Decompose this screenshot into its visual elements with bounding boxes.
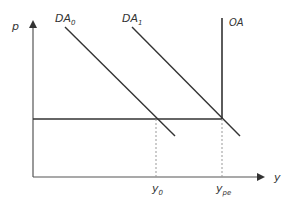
y-axis-label: p — [11, 20, 19, 33]
y0-tick-label: y0 — [151, 182, 164, 197]
da0-label: DA0 — [55, 12, 76, 27]
x-axis-label: y — [273, 171, 281, 184]
diagram-canvas: p y DA0 DA1 OA y0 ype — [0, 0, 293, 205]
oa-label: OA — [229, 17, 244, 28]
da1-label: DA1 — [122, 12, 142, 27]
ype-tick-label: ype — [215, 182, 231, 197]
